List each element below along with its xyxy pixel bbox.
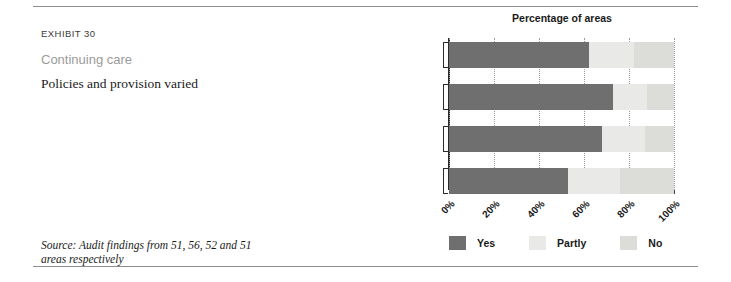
bar-segment-partly bbox=[602, 126, 645, 152]
legend-label: Partly bbox=[557, 237, 586, 249]
legend-label: No bbox=[648, 237, 662, 249]
category-bracket bbox=[443, 42, 448, 68]
chart-legend: YesPartlyNo bbox=[449, 236, 696, 250]
category-bracket bbox=[443, 84, 448, 110]
x-axis-tick bbox=[674, 190, 675, 194]
chart-title: Percentage of areas bbox=[449, 12, 675, 24]
plot-area bbox=[449, 38, 674, 190]
bar-row bbox=[449, 42, 674, 68]
bar-segment-yes bbox=[449, 84, 613, 110]
category-bracket bbox=[443, 168, 448, 194]
bar-segment-no bbox=[647, 84, 674, 110]
stacked-bar-chart: Percentage of areas YesPartlyNo 0%20%40%… bbox=[0, 0, 731, 282]
bar-row bbox=[449, 84, 674, 110]
gridline bbox=[674, 38, 675, 190]
bar-segment-yes bbox=[449, 168, 568, 194]
bar-segment-no bbox=[634, 42, 675, 68]
bar-segment-no bbox=[620, 168, 674, 194]
bar-segment-yes bbox=[449, 126, 602, 152]
bar-row bbox=[449, 126, 674, 152]
bar-segment-no bbox=[645, 126, 674, 152]
bar-segment-partly bbox=[613, 84, 647, 110]
category-bracket bbox=[443, 126, 448, 152]
bar-segment-yes bbox=[449, 42, 589, 68]
bar-segment-partly bbox=[568, 168, 620, 194]
bar-segment-partly bbox=[589, 42, 634, 68]
legend-label: Yes bbox=[477, 237, 495, 249]
bar-row bbox=[449, 168, 674, 194]
